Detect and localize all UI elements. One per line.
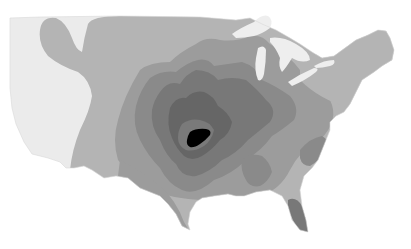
us-contour-map <box>0 0 411 249</box>
